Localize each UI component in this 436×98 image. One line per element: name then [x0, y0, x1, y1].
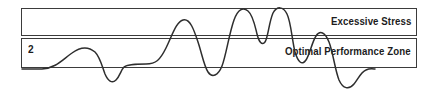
zone-label-excessive-stress: Excessive Stress	[331, 16, 411, 27]
zone-label-optimal-performance: Optimal Performance Zone	[285, 46, 411, 57]
stress-zone-diagram: Excessive Stress Optimal Performance Zon…	[0, 0, 436, 98]
index-marker-label: 2	[28, 44, 34, 55]
